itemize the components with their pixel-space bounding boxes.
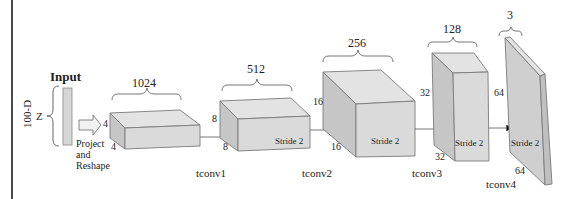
layer-1024: 1024 4 4: [103, 76, 200, 152]
project-label-line2: and: [76, 149, 90, 160]
depth-label: 512: [247, 62, 265, 76]
depth-label: 3: [507, 8, 513, 22]
input-brace-icon: [47, 86, 59, 146]
input-group: Input Z 100-D Project and Reshape: [21, 69, 110, 171]
input-title: Input: [50, 69, 82, 84]
width-label: 16: [331, 141, 341, 152]
input-vector-bar: [63, 88, 72, 145]
z-label: Z: [36, 110, 43, 122]
project-label-line3: Reshape: [76, 160, 110, 171]
layer-3: 3 64 64 Stride 2 tconv4: [486, 8, 552, 190]
height-label: 8: [212, 113, 217, 124]
op-label: tconv1: [196, 167, 226, 179]
stride-label: Stride 2: [455, 138, 483, 148]
layer-256: 256 16 16 Stride 2 tconv2: [302, 36, 415, 179]
height-label: 4: [103, 118, 108, 129]
brace-icon: [323, 50, 393, 62]
op-label: tconv3: [412, 167, 442, 179]
dcgan-generator-diagram: Input Z 100-D Project and Reshape 1024 4…: [0, 0, 575, 199]
width-label: 4: [111, 141, 116, 152]
brace-icon: [222, 79, 292, 91]
depth-label: 1024: [132, 76, 156, 90]
brace-icon: [428, 37, 477, 47]
stride-label: Stride 2: [275, 136, 303, 146]
depth-label: 128: [443, 22, 461, 36]
width-label: 32: [435, 151, 445, 162]
depth-label: 256: [348, 36, 366, 50]
op-label: tconv2: [302, 167, 332, 179]
project-label-line1: Project: [76, 138, 105, 149]
width-label: 8: [223, 141, 228, 152]
height-label: 16: [313, 96, 323, 107]
layer-128: 128 32 32 Stride 2 tconv3: [412, 22, 489, 179]
stride-label: Stride 2: [371, 136, 399, 146]
project-arrow-icon: [79, 115, 101, 135]
brace-icon: [499, 27, 522, 36]
op-label: tconv4: [486, 178, 516, 190]
layer-512: 512 8 8 Stride 2 tconv1: [196, 62, 310, 179]
height-label: 32: [420, 87, 430, 98]
width-label: 64: [515, 165, 525, 176]
stride-label: Stride 2: [511, 138, 539, 148]
height-label: 64: [494, 87, 504, 98]
dimension-label: 100-D: [21, 100, 33, 128]
